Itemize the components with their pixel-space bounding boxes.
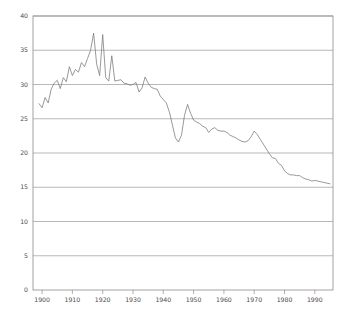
ytick-label-40: 40 [20, 12, 28, 19]
xtick-label-1930: 1930 [125, 296, 141, 303]
ytick-label-20: 20 [20, 149, 28, 156]
x-axis-tick-labels: 1900191019201930194019501960197019801990 [34, 296, 323, 303]
ytick-label-25: 25 [20, 115, 28, 122]
xtick-label-1910: 1910 [65, 296, 81, 303]
ytick-label-30: 30 [20, 81, 28, 88]
ytick-label-0: 0 [24, 286, 28, 293]
xtick-label-1970: 1970 [246, 296, 262, 303]
ytick-label-10: 10 [20, 218, 28, 225]
x-tickmarks [42, 290, 315, 294]
chart-container: 0510152025303540 19001910192019301940195… [0, 0, 347, 320]
xtick-label-1960: 1960 [216, 296, 232, 303]
data-series-group [39, 33, 330, 184]
y-axis-tick-labels: 0510152025303540 [20, 12, 28, 293]
series-line-rate [39, 33, 330, 184]
xtick-label-1900: 1900 [34, 296, 50, 303]
xtick-label-1950: 1950 [186, 296, 202, 303]
xtick-label-1920: 1920 [95, 296, 111, 303]
xtick-label-1990: 1990 [307, 296, 323, 303]
ytick-label-15: 15 [20, 183, 28, 190]
gridlines [33, 16, 333, 256]
xtick-label-1940: 1940 [155, 296, 171, 303]
ytick-label-5: 5 [24, 252, 28, 259]
line-chart: 0510152025303540 19001910192019301940195… [0, 0, 347, 320]
xtick-label-1980: 1980 [277, 296, 293, 303]
ytick-label-35: 35 [20, 46, 28, 53]
